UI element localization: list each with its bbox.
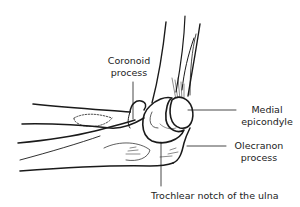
- trochlear-label-text: Trochlear notch of the ulna: [151, 190, 279, 201]
- olecranon-process-label: Olecranon process: [226, 140, 292, 164]
- ulna-bottom: [20, 163, 173, 171]
- medial-epicondyle-label: Medial epicondyle: [236, 104, 298, 128]
- medial-label-line2: epicondyle: [236, 116, 298, 128]
- medial-label-line1: Medial: [236, 104, 298, 116]
- trochlear-notch-label: Trochlear notch of the ulna: [151, 190, 279, 202]
- coronoid-process-label: Coronoid process: [96, 55, 162, 79]
- olecranon-label-line2: process: [226, 152, 292, 164]
- humerus-ridge-2: [182, 38, 194, 90]
- coronoid-label-line2: process: [96, 67, 162, 79]
- elbow-diagram: Coronoid process Medial epicondyle Olecr…: [0, 0, 300, 207]
- olecranon-label-line1: Olecranon: [226, 140, 292, 152]
- medial-epicondyle-shape: [170, 97, 193, 128]
- radius-top: [33, 104, 130, 112]
- coronoid-label-line1: Coronoid: [96, 55, 162, 67]
- ulna-inner: [20, 136, 100, 160]
- coronoid-shape: [130, 101, 146, 112]
